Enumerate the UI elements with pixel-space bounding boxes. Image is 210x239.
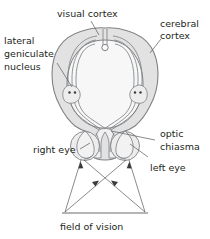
midline-circle [102,44,108,50]
arrow-ray-1 [78,162,83,169]
label-optic-chiasma-line1: optic [160,128,183,139]
label-cerebral-cortex-line2: cortex [160,30,190,41]
leader-cerebral-cortex [150,39,161,53]
lgn-left-dot-2 [74,91,76,93]
label-lateral-geniculate-line1: lateral [4,35,34,46]
lgn-right-dot-1 [134,91,136,93]
label-left-eye: left eye [150,162,186,173]
arrow-ray-4 [127,162,132,169]
label-right-eye: right eye [33,144,76,155]
label-lateral-geniculate-line3: nucleus [4,61,41,72]
lgn-left-dot-1 [68,91,70,93]
label-optic-chiasma-line2: chiasma [160,141,200,152]
label-visual-cortex: visual cortex [57,8,118,19]
label-cerebral-cortex-line1: cerebral [160,18,199,29]
visual-pathway-diagram: visual cortex cerebral cortex lateral ge… [0,0,210,239]
lgn-right-dot-2 [139,91,141,93]
label-field-of-vision: field of vision [60,221,123,232]
label-lateral-geniculate-line2: geniculate [4,48,54,59]
visual-field-rays [62,160,148,213]
